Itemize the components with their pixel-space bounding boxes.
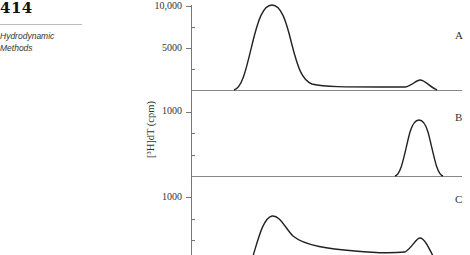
panel-a-curve — [234, 5, 437, 90]
panel-c-curve — [253, 216, 433, 255]
panel-b-curve — [395, 120, 443, 176]
y-axis-ticks — [186, 7, 195, 241]
chart-plot — [0, 0, 470, 255]
